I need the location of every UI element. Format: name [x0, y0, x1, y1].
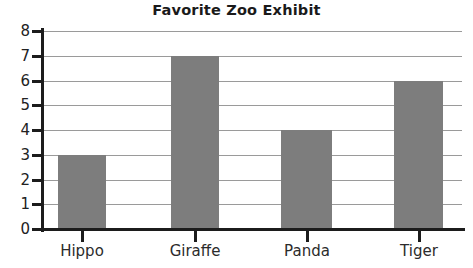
y-axis-tick-labels: 8 7 6 5 4 3 2 1 0: [0, 0, 30, 268]
x-tick-mark-tiger: [418, 231, 421, 242]
x-tick-label-tiger: Tiger: [359, 243, 473, 260]
bar-panda: [281, 130, 332, 229]
gridline-8: [43, 31, 462, 32]
y-tick-label-8: 8: [0, 24, 30, 39]
y-tick-mark-5: [32, 104, 42, 107]
bar-hippo: [58, 155, 106, 229]
y-tick-mark-8: [32, 30, 42, 33]
bar-chart-figure: Favorite Zoo Exhibit 8 7 6 5 4 3 2 1 0: [0, 0, 473, 268]
chart-title: Favorite Zoo Exhibit: [0, 2, 473, 18]
y-tick-mark-3: [32, 154, 42, 157]
x-tick-label-hippo: Hippo: [22, 243, 142, 260]
x-axis-line: [41, 228, 465, 231]
y-tick-mark-7: [32, 55, 42, 58]
x-tick-mark-giraffe: [194, 231, 197, 242]
y-tick-label-0: 0: [0, 222, 30, 237]
x-tick-label-panda: Panda: [247, 243, 367, 260]
y-tick-mark-0: [32, 228, 42, 231]
bar-giraffe: [171, 56, 219, 229]
x-tick-label-giraffe: Giraffe: [135, 243, 255, 260]
plot-area: [43, 31, 462, 229]
x-tick-mark-hippo: [81, 231, 84, 242]
y-tick-label-7: 7: [0, 49, 30, 64]
y-tick-mark-2: [32, 179, 42, 182]
y-tick-mark-6: [32, 80, 42, 83]
gridline-7: [43, 56, 462, 57]
y-tick-label-4: 4: [0, 123, 30, 138]
y-tick-label-3: 3: [0, 148, 30, 163]
y-tick-label-1: 1: [0, 197, 30, 212]
x-tick-mark-panda: [306, 231, 309, 242]
y-tick-label-2: 2: [0, 173, 30, 188]
y-tick-mark-1: [32, 203, 42, 206]
bar-tiger: [394, 81, 443, 230]
y-tick-label-5: 5: [0, 98, 30, 113]
y-tick-label-6: 6: [0, 74, 30, 89]
y-tick-mark-4: [32, 129, 42, 132]
